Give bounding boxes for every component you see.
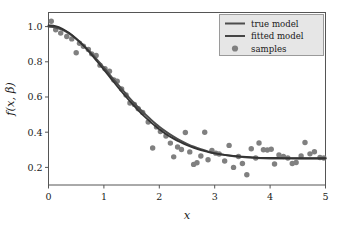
legend-label-true-model: true model xyxy=(251,19,299,29)
x-tick-label: 0 xyxy=(45,191,51,202)
sample-point xyxy=(179,147,184,152)
x-tick-label: 1 xyxy=(101,191,107,202)
sample-point xyxy=(222,158,227,163)
sample-point xyxy=(272,161,277,166)
sample-point xyxy=(256,140,261,145)
x-tick-label: 3 xyxy=(212,191,218,202)
sample-point xyxy=(73,50,78,55)
legend: true model fitted model samples xyxy=(220,15,324,56)
sample-point xyxy=(187,149,192,154)
sample-point xyxy=(194,160,199,165)
sample-point xyxy=(312,149,317,154)
legend-swatch-samples xyxy=(232,45,238,51)
sample-point xyxy=(64,34,69,39)
chart-plot: 012345 0.20.40.60.81.0 x f(x, β) true mo… xyxy=(0,0,339,228)
y-tick-label: 0.6 xyxy=(27,91,42,102)
figure-canvas: 012345 0.20.40.60.81.0 x f(x, β) true mo… xyxy=(0,0,339,228)
sample-point xyxy=(269,147,274,152)
y-tick-label: 0.2 xyxy=(27,162,42,173)
sample-point xyxy=(58,30,63,35)
y-tick-label: 1.0 xyxy=(27,21,42,32)
sample-point xyxy=(244,172,249,177)
sample-point xyxy=(168,140,173,145)
x-tick-label: 4 xyxy=(267,191,273,202)
sample-point xyxy=(198,153,203,158)
x-tick-label: 2 xyxy=(156,191,162,202)
sample-point xyxy=(240,161,245,166)
sample-point xyxy=(205,157,210,162)
sample-point xyxy=(231,165,236,170)
sample-point xyxy=(49,19,54,24)
legend-label-samples: samples xyxy=(251,44,286,54)
legend-label-fitted-model: fitted model xyxy=(251,31,304,41)
sample-point xyxy=(171,154,176,159)
y-tick-label: 0.4 xyxy=(27,127,42,138)
sample-point xyxy=(302,140,307,145)
sample-point xyxy=(293,160,298,165)
x-axis-label: x xyxy=(184,208,191,222)
sample-point xyxy=(150,145,155,150)
y-tick-label: 0.8 xyxy=(27,56,42,67)
y-axis-label: f(x, β) xyxy=(3,82,17,117)
sample-point xyxy=(226,143,231,148)
sample-point xyxy=(202,129,207,134)
sample-point xyxy=(249,146,254,151)
sample-point xyxy=(183,130,188,135)
x-tick-label: 5 xyxy=(322,191,328,202)
